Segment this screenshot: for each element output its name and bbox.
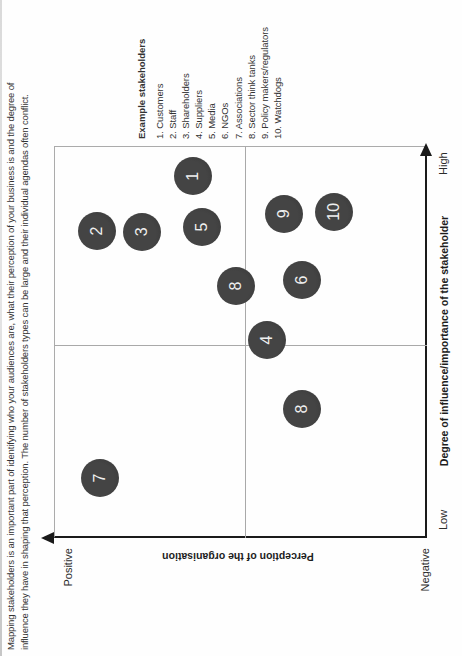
legend-title: Example stakeholders	[135, 3, 148, 139]
y-axis-arrow-icon	[41, 532, 54, 544]
x-axis-max-label: High	[437, 152, 449, 175]
data-point-8: 8	[217, 267, 255, 305]
y-axis-max-label: Positive	[62, 548, 74, 610]
data-point-label: 9	[275, 209, 293, 218]
x-axis-title: Degree of influence/importance of the st…	[438, 216, 450, 466]
x-axis-min-label: Low	[437, 510, 449, 530]
data-point-label: 4	[258, 336, 276, 345]
data-point-label: 1	[184, 172, 202, 181]
legend-item-list: 1. Customers2. Staff3. Shareholders4. Su…	[153, 3, 284, 139]
legend-item: 9. Policy makers/regulators	[258, 3, 271, 139]
stakeholder-map-figure: Mapping stakeholders is an important par…	[0, 0, 462, 656]
legend-item: 6. NGOs	[218, 3, 231, 139]
data-point-3: 3	[123, 213, 161, 251]
quadrant-divider-vertical	[54, 345, 427, 346]
data-point-label: 2	[88, 227, 106, 236]
legend-item: 8. Sector think tanks	[245, 3, 258, 139]
data-point-9: 9	[265, 195, 303, 233]
scanned-page: Mapping stakeholders is an important par…	[0, 0, 462, 656]
data-point-4: 4	[248, 321, 286, 359]
legend-item: 2. Staff	[166, 3, 179, 139]
data-point-label: 5	[193, 223, 211, 232]
legend-item: 7. Associations	[232, 3, 245, 139]
data-point-7: 7	[81, 459, 119, 497]
data-point-5: 5	[183, 208, 221, 246]
x-axis-arrow-icon	[420, 143, 432, 156]
quadrant-divider-horizontal	[245, 146, 246, 538]
data-point-6: 6	[283, 261, 321, 299]
data-point-10: 10	[315, 193, 353, 231]
legend: Example stakeholders 1. Customers2. Staf…	[135, 3, 284, 139]
legend-item: 10. Watchdogs	[271, 3, 284, 139]
data-point-label: 6	[293, 276, 311, 285]
figure-caption: Mapping stakeholders is an important par…	[4, 2, 32, 650]
data-point-label: 8	[227, 282, 245, 291]
legend-item: 4. Suppliers	[192, 3, 205, 139]
data-point-2: 2	[78, 212, 116, 250]
data-point-label: 10	[325, 203, 343, 221]
legend-item: 5. Media	[205, 3, 218, 139]
y-axis-title: Perception of the organisation	[162, 551, 314, 563]
figure-caption-line1: Mapping stakeholders is an important par…	[4, 2, 18, 650]
data-point-label: 7	[91, 474, 109, 483]
data-point-label: 8	[293, 405, 311, 414]
data-point-8: 8	[283, 390, 321, 428]
legend-item: 3. Shareholders	[179, 3, 192, 139]
y-axis-min-label: Negative	[419, 548, 431, 610]
legend-item: 1. Customers	[153, 3, 166, 139]
figure-caption-line2: influence they have in shaping that perc…	[18, 2, 32, 650]
data-point-label: 3	[133, 227, 151, 236]
